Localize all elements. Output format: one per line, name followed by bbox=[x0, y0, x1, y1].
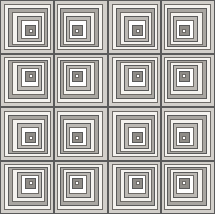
quilt-block bbox=[0, 54, 54, 108]
quilt-block bbox=[0, 0, 54, 54]
quilt-block bbox=[161, 161, 215, 215]
quilt-block bbox=[161, 107, 215, 161]
quilt-block bbox=[54, 0, 108, 54]
quilt-block bbox=[54, 107, 108, 161]
ring-center bbox=[136, 136, 140, 140]
ring-center bbox=[29, 136, 33, 140]
ring-center bbox=[182, 181, 186, 185]
ring-center bbox=[182, 136, 186, 140]
ring-center bbox=[136, 29, 140, 33]
ring-center bbox=[29, 181, 33, 185]
ring-center bbox=[75, 29, 79, 33]
ring-center bbox=[182, 74, 186, 78]
quilt-block bbox=[108, 161, 162, 215]
ring-center bbox=[75, 181, 79, 185]
ring-center bbox=[136, 74, 140, 78]
quilt-block bbox=[0, 107, 54, 161]
ring-center bbox=[75, 136, 79, 140]
ring-center bbox=[136, 181, 140, 185]
quilt-canvas bbox=[0, 0, 215, 214]
quilt-block bbox=[161, 54, 215, 108]
quilt-block bbox=[54, 161, 108, 215]
ring-center bbox=[29, 29, 33, 33]
ring-center bbox=[75, 74, 79, 78]
quilt-block bbox=[108, 0, 162, 54]
ring-center bbox=[182, 29, 186, 33]
quilt-block bbox=[108, 54, 162, 108]
quilt-block bbox=[0, 161, 54, 215]
quilt-block bbox=[54, 54, 108, 108]
quilt-block bbox=[161, 0, 215, 54]
quilt-grid bbox=[0, 0, 215, 214]
ring-center bbox=[29, 74, 33, 78]
quilt-block bbox=[108, 107, 162, 161]
